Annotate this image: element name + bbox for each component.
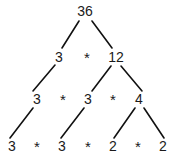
factor-node: 2 [109,139,117,153]
factor-node: 36 [77,4,93,18]
factor-node: 4 [135,92,143,106]
factor-node: 3 [84,92,92,106]
multiply-operator: * [84,50,90,65]
factor-node: 3 [55,50,63,64]
multiply-operator: * [135,139,141,154]
factor-node: 2 [159,139,167,153]
factor-node: 3 [58,139,66,153]
multiply-operator: * [110,92,116,107]
factor-tree-nodes: 363*123*3*43*3*2*2 [0,0,176,162]
multiply-operator: * [85,139,91,154]
multiply-operator: * [34,139,40,154]
factor-node: 3 [33,92,41,106]
factor-node: 12 [108,50,124,64]
multiply-operator: * [60,92,66,107]
factor-node: 3 [8,139,16,153]
